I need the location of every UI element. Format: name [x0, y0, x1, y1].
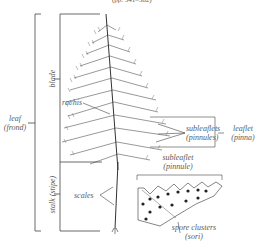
leaf-bracket: [28, 14, 41, 231]
spore-clusters-label-line1: spore clusters: [166, 223, 222, 232]
sori-dots: [141, 188, 207, 220]
fern-blade: [62, 14, 170, 170]
subleaflet-label-line2: (pinnule): [158, 162, 198, 171]
leaflet-label-line2: (pinna): [225, 133, 261, 142]
subleaflets-label-line1: subleaflets: [186, 124, 216, 133]
leaf-label-line2: (frond): [2, 123, 28, 132]
subleaflets-label: subleaflets (pinnules): [186, 124, 216, 142]
subleaflets-label-line2: (pinnules): [186, 133, 216, 142]
leaf-label: leaf (frond): [2, 114, 28, 132]
leaf-label-line1: leaf: [2, 114, 28, 123]
spore-clusters-label: spore clusters (sori): [166, 223, 222, 241]
leaflet-label: leaflet (pinna): [225, 124, 261, 142]
stalk-label: stalk (stipe): [48, 167, 57, 223]
pointer-lines: [83, 103, 224, 233]
subleaflet-label: subleaflet (pinnule): [158, 153, 198, 171]
fern-diagram: [0, 0, 266, 245]
rachis-label: rachis: [62, 98, 82, 107]
fern-stalk: [112, 162, 118, 234]
spore-clusters-label-line2: (sori): [166, 232, 222, 241]
scales-label: scales: [74, 191, 94, 200]
pinnule-closeup: [138, 182, 222, 226]
subleaflet-label-line1: subleaflet: [158, 153, 198, 162]
blade-bracket: [54, 14, 102, 162]
leaflet-label-line1: leaflet: [225, 124, 261, 133]
blade-label: blade: [48, 61, 57, 97]
